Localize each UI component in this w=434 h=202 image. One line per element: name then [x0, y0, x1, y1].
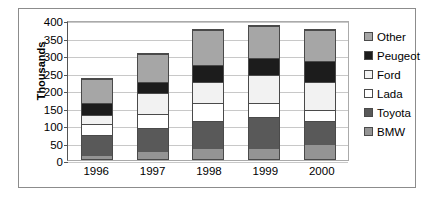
- bar-segment-ford[interactable]: [193, 82, 223, 103]
- legend-item-peugeot[interactable]: Peugeot: [364, 46, 434, 65]
- legend-item-toyota[interactable]: Toyota: [364, 103, 434, 122]
- bar-column: [242, 22, 287, 160]
- x-tick-label: 1998: [186, 165, 231, 177]
- stacked-bar[interactable]: [192, 29, 224, 161]
- bar-segment-bmw[interactable]: [305, 145, 335, 159]
- legend-label: Ford: [377, 69, 401, 81]
- legend-item-lada[interactable]: Lada: [364, 84, 434, 103]
- x-tick-label: 2000: [299, 165, 344, 177]
- x-tick-label: 1997: [130, 165, 175, 177]
- y-tick-label: 0: [57, 156, 63, 168]
- bar-segment-lada[interactable]: [305, 110, 335, 121]
- bar-segment-peugeot[interactable]: [249, 58, 279, 76]
- bar-segment-toyota[interactable]: [305, 121, 335, 146]
- bar-segment-other[interactable]: [82, 79, 112, 104]
- chart-container: Thousands 400350300250200150100500 19961…: [18, 8, 416, 188]
- bar-segment-lada[interactable]: [138, 114, 168, 128]
- bar-segment-bmw[interactable]: [82, 156, 112, 160]
- bar-segment-lada[interactable]: [249, 103, 279, 117]
- bar-segment-peugeot[interactable]: [305, 61, 335, 82]
- bar-segment-other[interactable]: [193, 30, 223, 65]
- legend-swatch-icon: [364, 70, 373, 79]
- legend-swatch-icon: [364, 127, 373, 136]
- stacked-bar[interactable]: [248, 25, 280, 160]
- bar-segment-peugeot[interactable]: [138, 82, 168, 93]
- bar-segment-other[interactable]: [138, 54, 168, 82]
- y-tick-label: 200: [44, 86, 63, 98]
- y-tick-label: 150: [44, 104, 63, 116]
- y-tick-mark: [64, 57, 68, 58]
- y-tick-mark: [64, 110, 68, 111]
- legend-label: BMW: [377, 126, 405, 138]
- legend-label: Peugeot: [377, 50, 420, 62]
- bar-segment-lada[interactable]: [193, 103, 223, 121]
- y-tick-label: 350: [44, 34, 63, 46]
- bar-segment-bmw[interactable]: [138, 152, 168, 159]
- stacked-bar[interactable]: [304, 29, 336, 161]
- y-tick-mark: [64, 75, 68, 76]
- y-tick-mark: [64, 162, 68, 163]
- legend-swatch-icon: [364, 89, 373, 98]
- bar-segment-lada[interactable]: [82, 124, 112, 135]
- y-tick-mark: [64, 40, 68, 41]
- legend-swatch-icon: [364, 51, 373, 60]
- legend-label: Lada: [377, 88, 403, 100]
- bar-segment-bmw[interactable]: [249, 149, 279, 160]
- legend-label: Toyota: [377, 107, 411, 119]
- legend-label: Other: [377, 31, 406, 43]
- stacked-bar[interactable]: [81, 78, 113, 161]
- y-tick-mark: [64, 145, 68, 146]
- legend-item-ford[interactable]: Ford: [364, 65, 434, 84]
- stacked-bar[interactable]: [137, 53, 169, 160]
- bar-segment-ford[interactable]: [305, 82, 335, 110]
- gridline: 0: [68, 162, 348, 163]
- legend-swatch-icon: [364, 32, 373, 41]
- legend-swatch-icon: [364, 108, 373, 117]
- y-tick-label: 50: [50, 139, 63, 151]
- y-tick-mark: [64, 92, 68, 93]
- bar-segment-ford[interactable]: [249, 75, 279, 103]
- bar-segment-bmw[interactable]: [193, 149, 223, 160]
- bar-column: [75, 22, 120, 160]
- x-tick-label: 1996: [74, 165, 119, 177]
- bar-segment-toyota[interactable]: [138, 128, 168, 153]
- legend-item-other[interactable]: Other: [364, 27, 434, 46]
- y-tick-mark: [64, 127, 68, 128]
- bar-segment-peugeot[interactable]: [193, 65, 223, 83]
- legend: OtherPeugeotFordLadaToyotaBMW: [364, 27, 434, 141]
- y-tick-label: 400: [44, 16, 63, 28]
- bar-group: [69, 22, 348, 160]
- y-tick-label: 100: [44, 121, 63, 133]
- bar-segment-ford[interactable]: [82, 115, 112, 124]
- y-tick-label: 250: [44, 69, 63, 81]
- y-tick-label: 300: [44, 51, 63, 63]
- x-axis-labels: 19961997199819992000: [68, 165, 350, 177]
- bar-segment-other[interactable]: [305, 30, 335, 62]
- bar-segment-ford[interactable]: [138, 93, 168, 114]
- bar-segment-toyota[interactable]: [82, 135, 112, 156]
- y-tick-mark: [64, 22, 68, 23]
- x-tick-label: 1999: [243, 165, 288, 177]
- plot-wrapper: 400350300250200150100500: [67, 21, 349, 161]
- plot-area: 400350300250200150100500: [67, 21, 349, 161]
- bar-segment-toyota[interactable]: [193, 121, 223, 149]
- bar-column: [186, 22, 231, 160]
- legend-item-bmw[interactable]: BMW: [364, 122, 434, 141]
- bar-column: [130, 22, 175, 160]
- bar-segment-peugeot[interactable]: [82, 103, 112, 115]
- bar-column: [298, 22, 343, 160]
- bar-segment-other[interactable]: [249, 26, 279, 58]
- bar-segment-toyota[interactable]: [249, 117, 279, 149]
